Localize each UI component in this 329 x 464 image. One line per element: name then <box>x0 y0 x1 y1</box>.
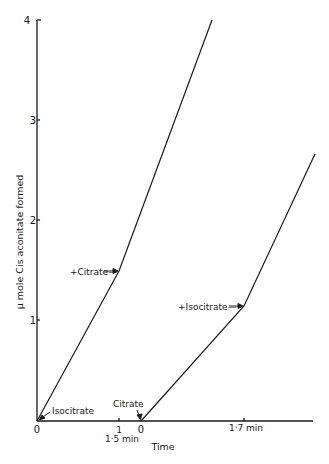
x-label-1-7min: 1·7 min <box>229 423 263 433</box>
x-label-0a: 0 <box>34 424 40 435</box>
y-label-2: 2 <box>30 215 36 226</box>
y-axis-title: μ mole Cis aconitate formed <box>14 175 25 310</box>
x-label-1-5min: 1·5 min <box>105 434 139 444</box>
annotation-citrate-start: Citrate <box>113 399 144 409</box>
chart: 4 3 2 1 μ mole Cis aconitate formed 0 1 … <box>0 0 329 464</box>
citrate-start-arrowhead <box>137 414 142 420</box>
annotation-citrate-add: +Citrate— <box>70 267 117 277</box>
axes <box>37 20 313 421</box>
annotation-arrows <box>39 269 243 421</box>
annotation-isocitrate-start: Isocitrate <box>52 406 95 416</box>
y-label-4: 4 <box>24 15 30 26</box>
y-label-1: 1 <box>30 315 36 326</box>
series <box>37 20 315 421</box>
y-label-3: 3 <box>30 115 36 126</box>
annotation-isocitrate-add: +Isocitrate— <box>178 302 237 312</box>
series-1-line <box>37 20 212 421</box>
x-axis-title: Time <box>150 441 174 452</box>
x-label-0b: 0 <box>138 424 144 435</box>
series-2-line <box>141 154 315 421</box>
